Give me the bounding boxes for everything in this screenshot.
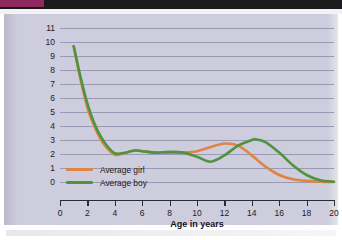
- x-tick-label: 14: [247, 208, 256, 218]
- panel-shade-left: [4, 14, 18, 225]
- x-tick-label: 2: [85, 208, 90, 218]
- x-tick-label: 0: [58, 208, 63, 218]
- x-tick-label: 20: [329, 208, 338, 218]
- plot-area: 01234567891011: [60, 28, 334, 182]
- series-container: [60, 28, 334, 182]
- y-tick-label: 11: [46, 23, 55, 33]
- scan-artifact-magenta: [0, 0, 44, 7]
- x-tick-label: 18: [302, 208, 311, 218]
- x-tick-mark: [170, 200, 171, 206]
- legend-item: Average boy: [66, 177, 147, 188]
- y-tick-label: 4: [50, 121, 55, 131]
- page-ghost-text: [6, 230, 336, 236]
- x-tick-label: 12: [220, 208, 229, 218]
- x-tick-label: 6: [140, 208, 145, 218]
- legend-label: Average girl: [100, 165, 145, 175]
- y-tick-label: 3: [50, 135, 55, 145]
- x-tick-mark: [142, 200, 143, 206]
- y-tick-label: 6: [50, 93, 55, 103]
- series-line: [74, 46, 334, 182]
- x-tick-label: 16: [274, 208, 283, 218]
- y-tick-label: 1: [50, 163, 55, 173]
- x-tick-mark: [334, 200, 335, 206]
- x-axis-title: Age in years: [60, 219, 334, 229]
- x-tick-label: 4: [112, 208, 117, 218]
- x-tick-label: 8: [167, 208, 172, 218]
- x-tick-mark: [224, 200, 225, 206]
- y-tick-label: 10: [46, 37, 55, 47]
- y-tick-label: 5: [50, 107, 55, 117]
- x-tick-mark: [115, 200, 116, 206]
- chart-legend: Average girlAverage boy: [66, 164, 147, 190]
- x-tick-mark: [60, 200, 61, 206]
- legend-swatch: [66, 181, 93, 184]
- x-tick-mark: [252, 200, 253, 206]
- legend-label: Average boy: [100, 178, 147, 188]
- series-line: [74, 46, 334, 182]
- x-tick-mark: [307, 200, 308, 206]
- chart-panel: Height gain in inches per year 012345678…: [4, 14, 338, 225]
- legend-item: Average girl: [66, 164, 147, 175]
- x-tick-label: 10: [192, 208, 201, 218]
- legend-swatch: [66, 168, 93, 171]
- x-tick-mark: [197, 200, 198, 206]
- y-tick-label: 9: [50, 51, 55, 61]
- y-tick-label: 7: [50, 79, 55, 89]
- x-tick-mark: [87, 200, 88, 206]
- y-tick-label: 8: [50, 65, 55, 75]
- x-tick-mark: [279, 200, 280, 206]
- y-tick-label: 2: [50, 149, 55, 159]
- scan-artifact-band: [0, 0, 342, 9]
- y-tick-label: 0: [50, 177, 55, 187]
